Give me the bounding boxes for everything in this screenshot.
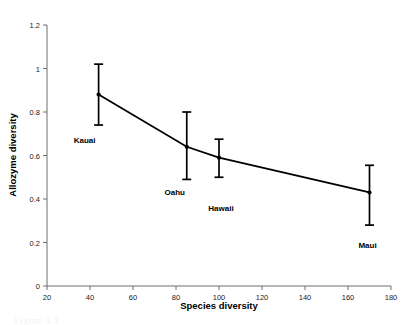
figure-caption: Figure 1.1 [14, 314, 59, 325]
figure-container: 20406080100120140160180 00.20.40.60.811.… [0, 0, 415, 325]
data-point-label: Maui [358, 241, 376, 250]
data-marker [185, 145, 189, 149]
x-tick-label: 20 [43, 293, 51, 302]
y-tick-label: 0.8 [30, 108, 40, 117]
y-axis-ticks: 00.20.40.60.811.2 [30, 21, 47, 291]
data-series [99, 95, 370, 193]
data-point-label: Kauai [74, 136, 96, 145]
data-point-labels: KauaiOahuHawaiiMaui [74, 136, 377, 251]
x-tick-label: 60 [129, 293, 137, 302]
x-tick-label: 80 [172, 293, 180, 302]
y-tick-label: 0.6 [30, 152, 40, 161]
x-axis-title: Species diversity [180, 300, 258, 311]
data-marker [367, 190, 371, 194]
data-marker [97, 93, 101, 97]
caption-strip: Figure 1.1 [0, 311, 415, 325]
y-tick-label: 0 [36, 282, 40, 291]
x-tick-label: 180 [385, 293, 398, 302]
x-tick-label: 160 [342, 293, 355, 302]
data-markers [97, 93, 372, 195]
y-axis-title: Allozyme diversity [7, 113, 18, 197]
chart-canvas: 20406080100120140160180 00.20.40.60.811.… [0, 0, 415, 325]
y-tick-label: 0.4 [30, 195, 40, 204]
data-point-label: Oahu [165, 188, 186, 197]
y-tick-label: 0.2 [30, 239, 40, 248]
x-tick-label: 140 [299, 293, 312, 302]
data-point-label: Hawaii [208, 204, 233, 213]
series-line [99, 95, 370, 193]
data-marker [217, 156, 221, 160]
error-bars [94, 64, 374, 225]
y-tick-label: 1.2 [30, 21, 40, 30]
x-tick-label: 40 [86, 293, 94, 302]
y-tick-label: 1 [36, 65, 40, 74]
